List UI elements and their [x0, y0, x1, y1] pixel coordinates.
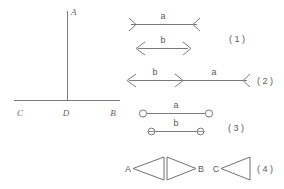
diagram-3: a b ( 3 ): [139, 100, 244, 135]
label-segment-b-3: b: [173, 118, 178, 128]
label-segment-b-2: b: [152, 67, 157, 77]
diagram-1-row-a: a: [129, 11, 200, 31]
label-point-C: C: [17, 108, 24, 118]
label-segment-b: b: [160, 35, 165, 45]
diagram-number-3: ( 3 ): [228, 123, 244, 133]
label-segment-a: a: [160, 11, 165, 21]
left-diagram: A C D B: [14, 7, 120, 118]
diagram-1: a b ( 1 ): [129, 11, 245, 55]
open-circle-left-a: [139, 110, 146, 117]
diagram-3-row-a: a: [139, 100, 212, 117]
diagram-3-row-b: b: [148, 118, 205, 135]
label-point-A-4: A: [125, 164, 131, 174]
figure-canvas: A C D B a b ( 1 ): [0, 0, 284, 189]
label-point-C-4: C: [213, 164, 220, 174]
diagram-number-4: ( 4 ): [257, 164, 273, 174]
triangle-left-icon-2: [221, 157, 250, 180]
triangle-right-icon: [167, 157, 196, 180]
open-circle-right-a: [205, 110, 212, 117]
diagram-1-row-b: b: [136, 35, 191, 55]
diagram-2: b a ( 2 ): [127, 67, 273, 87]
label-segment-a-3: a: [173, 100, 178, 110]
diagram-number-1: ( 1 ): [229, 34, 245, 44]
label-segment-a-2: a: [211, 67, 216, 77]
diagram-4: A B C ( 4 ): [125, 157, 273, 180]
triangle-left-icon: [133, 157, 164, 180]
label-point-A: A: [70, 7, 77, 17]
geometry-figure: A C D B a b ( 1 ): [0, 0, 284, 189]
label-point-B-4: B: [198, 164, 204, 174]
label-point-D: D: [62, 108, 70, 118]
diagram-number-2: ( 2 ): [257, 76, 273, 86]
label-point-B: B: [110, 108, 116, 118]
